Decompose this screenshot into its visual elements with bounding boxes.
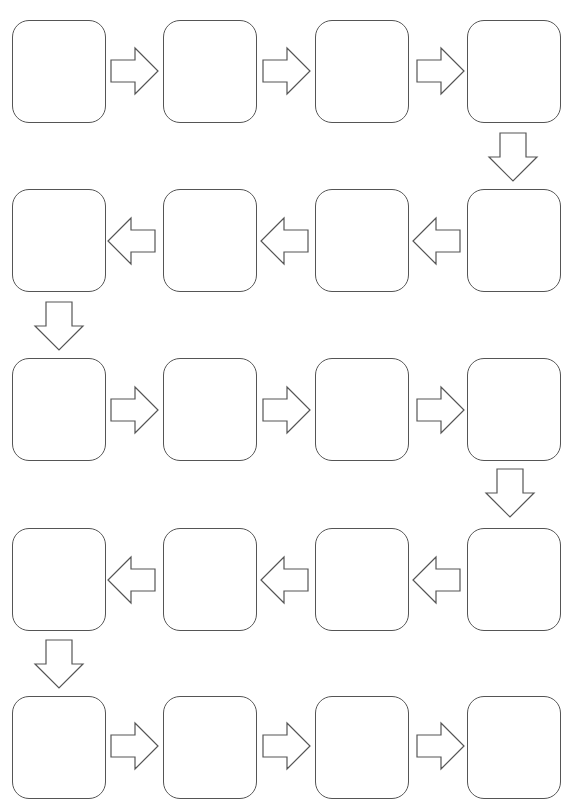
arrow-left-icon — [261, 557, 308, 603]
arrow-left-icon — [413, 557, 460, 603]
arrow-down-icon — [486, 469, 534, 517]
arrow-down-icon — [489, 133, 537, 181]
arrow-left-icon — [413, 218, 460, 264]
arrow-down-icon — [35, 640, 83, 688]
arrow-right-icon — [111, 387, 158, 433]
arrow-left-icon — [261, 218, 308, 264]
arrow-right-icon — [111, 723, 158, 769]
arrow-right-icon — [111, 48, 158, 94]
arrow-right-icon — [263, 723, 310, 769]
arrow-right-icon — [417, 723, 464, 769]
arrow-right-icon — [263, 387, 310, 433]
arrow-left-icon — [108, 557, 155, 603]
arrow-down-icon — [35, 302, 83, 350]
arrow-left-icon — [108, 218, 155, 264]
arrow-right-icon — [417, 387, 464, 433]
arrow-right-icon — [417, 48, 464, 94]
arrows-layer — [0, 0, 572, 811]
arrow-right-icon — [263, 48, 310, 94]
